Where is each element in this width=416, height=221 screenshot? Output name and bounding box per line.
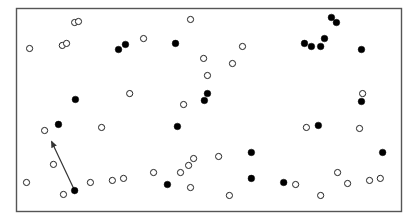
hollow-point-4 (63, 40, 69, 46)
hollow-point-6 (140, 35, 146, 41)
hollow-point-36 (360, 90, 366, 96)
hollow-point-25 (216, 153, 222, 159)
filled-point-12 (280, 179, 287, 186)
scatter-chart (0, 0, 416, 221)
hollow-point-30 (334, 169, 340, 175)
hollow-point-22 (177, 169, 183, 175)
hollow-point-11 (180, 101, 186, 107)
filled-point-15 (301, 40, 308, 47)
hollow-point-31 (345, 180, 351, 186)
hollow-point-16 (23, 179, 29, 185)
hollow-point-7 (201, 55, 207, 61)
hollow-point-17 (60, 191, 66, 197)
hollow-point-33 (377, 175, 383, 181)
filled-point-21 (315, 122, 322, 129)
hollow-point-15 (50, 161, 56, 167)
hollow-point-12 (127, 90, 133, 96)
filled-point-7 (174, 123, 181, 130)
filled-point-6 (201, 97, 208, 104)
plot-frame (17, 9, 402, 212)
filled-point-9 (164, 181, 171, 188)
hollow-point-14 (98, 124, 104, 130)
hollow-point-20 (120, 175, 126, 181)
filled-point-10 (248, 149, 255, 156)
filled-point-8 (71, 187, 78, 194)
hollow-point-27 (226, 192, 232, 198)
hollow-point-28 (293, 181, 299, 187)
filled-point-16 (308, 43, 315, 50)
hollow-point-32 (366, 177, 372, 183)
hollow-point-10 (204, 72, 210, 78)
hollow-point-13 (42, 127, 48, 133)
hollow-point-29 (318, 192, 324, 198)
hollow-point-2 (75, 18, 81, 24)
hollow-point-18 (87, 179, 93, 185)
filled-point-0 (115, 46, 122, 53)
hollow-point-26 (187, 184, 193, 190)
hollow-point-34 (303, 124, 309, 130)
filled-point-19 (358, 46, 365, 53)
filled-point-18 (321, 35, 328, 42)
filled-point-1 (122, 41, 129, 48)
hollow-point-24 (191, 155, 197, 161)
hollow-point-21 (150, 169, 156, 175)
hollow-point-5 (187, 16, 193, 22)
filled-point-4 (55, 121, 62, 128)
filled-point-13 (328, 14, 335, 21)
filled-point-11 (248, 175, 255, 182)
hollow-point-19 (109, 177, 115, 183)
filled-point-22 (379, 149, 386, 156)
filled-point-3 (72, 96, 79, 103)
hollow-point-9 (229, 60, 235, 66)
filled-point-14 (333, 19, 340, 26)
filled-point-2 (172, 40, 179, 47)
hollow-point-8 (239, 43, 245, 49)
hollow-point-35 (356, 125, 362, 131)
filled-point-17 (317, 43, 324, 50)
hollow-point-23 (185, 162, 191, 168)
filled-point-20 (358, 98, 365, 105)
hollow-point-0 (26, 45, 32, 51)
filled-point-5 (204, 90, 211, 97)
